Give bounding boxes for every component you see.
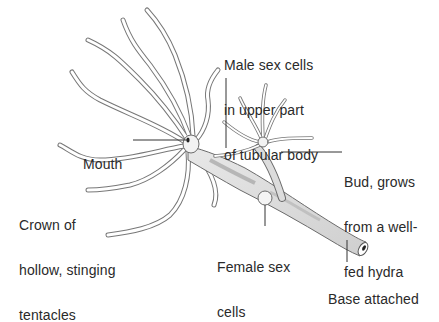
label-mouth: Mouth [83, 127, 122, 187]
label-base: Base attached to a leaf or plant stem [328, 262, 419, 322]
label-female-sex-cells: Female sex cells [217, 230, 290, 322]
ovary [258, 191, 272, 205]
mouth-region [183, 135, 199, 153]
label-crown: Crown of hollow, stinging tentacles [19, 188, 116, 322]
label-male-sex-cells: Male sex cells in upper part of tubular … [224, 28, 318, 178]
